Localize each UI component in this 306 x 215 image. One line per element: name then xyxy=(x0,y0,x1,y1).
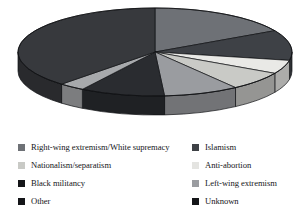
legend-item-unknown: Unknown xyxy=(182,192,306,210)
legend-label-islamism: Islamism xyxy=(205,142,236,152)
legend-label-other: Other xyxy=(31,196,50,206)
legend-label-black-militancy: Black militancy xyxy=(31,178,85,188)
pie-graphic xyxy=(0,0,306,130)
legend-swatch-anti-abortion xyxy=(192,162,199,169)
pie-top-layer xyxy=(18,8,292,96)
legend-label-anti-abortion: Anti-abortion xyxy=(205,160,251,170)
pie-chart: Right-wing extremism/White supremacy Isl… xyxy=(0,0,306,215)
legend-item-left-wing-extremism: Left-wing extremism xyxy=(182,174,306,192)
legend-item-other: Other xyxy=(0,192,182,210)
legend-label-right-wing-extremism: Right-wing extremism/White supremacy xyxy=(31,142,170,152)
legend-item-nationalism-separatism: Nationalism/separatism xyxy=(0,156,182,174)
legend-item-right-wing-extremism: Right-wing extremism/White supremacy xyxy=(0,138,182,156)
legend-swatch-other xyxy=(18,198,25,205)
legend-swatch-left-wing-extremism xyxy=(192,180,199,187)
legend-label-left-wing-extremism: Left-wing extremism xyxy=(205,178,277,188)
legend-item-black-militancy: Black militancy xyxy=(0,174,182,192)
legend-item-islamism: Islamism xyxy=(182,138,306,156)
legend-label-nationalism-separatism: Nationalism/separatism xyxy=(31,160,111,170)
legend-swatch-unknown xyxy=(192,198,199,205)
pie-svg xyxy=(0,0,306,130)
legend-item-anti-abortion: Anti-abortion xyxy=(182,156,306,174)
legend-swatch-islamism xyxy=(192,144,199,151)
legend-swatch-black-militancy xyxy=(18,180,25,187)
legend-swatch-right-wing-extremism xyxy=(18,144,25,151)
legend-label-unknown: Unknown xyxy=(205,196,239,206)
chart-legend: Right-wing extremism/White supremacy Isl… xyxy=(0,138,306,212)
legend-swatch-nationalism-separatism xyxy=(18,162,25,169)
